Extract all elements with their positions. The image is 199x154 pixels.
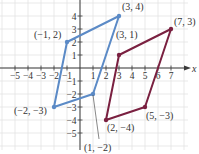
vertex-point — [143, 105, 147, 109]
y-tick-label: −1 — [66, 77, 76, 87]
y-tick-label: −5 — [66, 129, 76, 139]
y-tick-label: 1 — [72, 51, 77, 61]
vertex-point — [169, 27, 173, 31]
x-tick-label: 1 — [91, 71, 96, 81]
y-tick-label: −3 — [66, 103, 76, 113]
x-tick-label: 3 — [117, 71, 122, 81]
x-tick-label: −2 — [49, 71, 59, 81]
coordinate-plane: x −5−4−3−2−11234567 4321−1−2−3−4−5 (−1, … — [0, 0, 199, 154]
point-label: (2, −4) — [107, 122, 134, 134]
vertex-point — [52, 105, 56, 109]
x-axis-arrow-icon — [184, 66, 191, 71]
point-label: (−2, −3) — [14, 105, 47, 117]
x-tick-label: −3 — [36, 71, 46, 81]
point-label: (7, 3) — [174, 16, 196, 28]
x-tick-label: 5 — [143, 71, 148, 81]
blue-parallelogram — [54, 16, 119, 107]
y-tick-label: 3 — [72, 25, 77, 35]
y-tick-label: 4 — [72, 12, 77, 22]
maroon-parallelogram — [106, 29, 171, 120]
y-tick-label: −2 — [66, 90, 76, 100]
x-tick-label: −4 — [23, 71, 33, 81]
point-label: (−1, 2) — [34, 29, 61, 41]
vertex-point — [117, 53, 121, 57]
point-label: (3, 4) — [122, 1, 144, 13]
point-label: (5, −3) — [146, 110, 173, 122]
label-leader-line — [93, 95, 99, 139]
x-axis-label: x — [191, 63, 197, 74]
vertex-point — [117, 14, 121, 18]
vertex-point — [65, 40, 69, 44]
y-tick-label: −4 — [66, 116, 76, 126]
point-label: (1, −2) — [84, 142, 111, 154]
x-tick-label: 2 — [104, 71, 109, 81]
point-label: (3, 1) — [116, 29, 138, 41]
x-tick-label: 7 — [169, 71, 174, 81]
x-tick-label: 4 — [130, 71, 135, 81]
x-tick-label: −5 — [10, 71, 20, 81]
